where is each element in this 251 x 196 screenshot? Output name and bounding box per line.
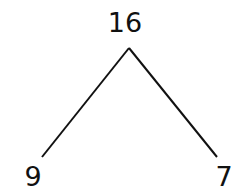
- left-connector-line: [42, 48, 129, 157]
- whole-number: 16: [105, 9, 145, 36]
- right-part-number: 7: [209, 163, 239, 190]
- left-part-number: 9: [18, 163, 48, 190]
- number-bond-diagram: 16 9 7: [0, 0, 251, 196]
- right-connector-line: [129, 48, 217, 157]
